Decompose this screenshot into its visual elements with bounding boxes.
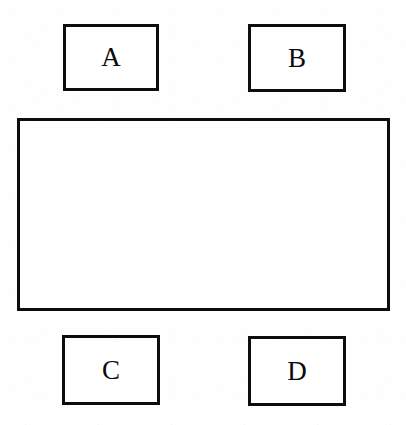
box-a[interactable]: A <box>63 24 159 91</box>
box-a-label: A <box>101 44 121 71</box>
box-c[interactable]: C <box>62 335 160 405</box>
box-b-label: B <box>288 45 306 72</box>
box-d-label: D <box>287 358 307 385</box>
box-b[interactable]: B <box>248 24 346 92</box>
center-rectangle[interactable] <box>17 118 390 311</box>
box-d[interactable]: D <box>248 336 346 406</box>
box-c-label: C <box>102 357 120 384</box>
diagram-canvas: A B C D <box>0 0 406 425</box>
